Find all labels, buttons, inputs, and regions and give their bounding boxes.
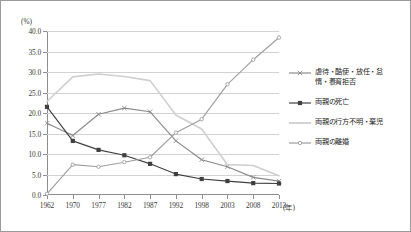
data-point-marker bbox=[174, 139, 178, 143]
chart-legend: 虐待・酷使・放任・怠 惰・養育拒否両親の死亡両親の行方不明・棄児両親の離婚 bbox=[289, 67, 407, 157]
data-point-marker bbox=[226, 83, 229, 86]
legend-marker-icon bbox=[289, 68, 311, 78]
data-point-marker bbox=[200, 117, 203, 120]
x-axis-tick-label: 1970 bbox=[66, 201, 80, 210]
legend-label: 両親の離婚 bbox=[315, 137, 349, 147]
legend-item-2[interactable]: 両親の行方不明・棄児 bbox=[289, 117, 407, 128]
x-axis-tick bbox=[73, 195, 74, 199]
data-point-marker bbox=[45, 105, 49, 109]
series-line bbox=[47, 74, 279, 176]
x-axis-tick bbox=[150, 195, 151, 199]
data-point-marker bbox=[71, 139, 75, 143]
x-axis-tick-label: 1992 bbox=[169, 201, 183, 210]
x-axis-tick bbox=[227, 195, 228, 199]
x-axis-tick-label: 1977 bbox=[91, 201, 105, 210]
x-axis-tick-label: 2008 bbox=[246, 201, 260, 210]
data-point-marker bbox=[251, 181, 255, 185]
legend-item-1[interactable]: 両親の死亡 bbox=[289, 97, 407, 108]
x-axis-tick bbox=[99, 195, 100, 199]
legend-marker-icon bbox=[289, 118, 311, 128]
data-point-marker bbox=[298, 101, 302, 105]
data-point-marker bbox=[174, 131, 177, 134]
data-point-marker bbox=[225, 179, 229, 183]
series-layer bbox=[47, 31, 279, 195]
y-axis-unit-label: (%) bbox=[21, 17, 32, 26]
data-point-marker bbox=[148, 156, 151, 159]
y-axis-tick-label: 25.0 bbox=[28, 88, 41, 97]
x-axis-tick bbox=[253, 195, 254, 199]
data-point-marker bbox=[298, 141, 301, 144]
legend-item-0[interactable]: 虐待・酷使・放任・怠 惰・養育拒否 bbox=[289, 67, 407, 86]
legend-marker-icon bbox=[289, 98, 311, 108]
data-point-marker bbox=[148, 162, 152, 166]
y-axis-tick-label: 10.0 bbox=[28, 150, 41, 159]
x-axis-tick bbox=[279, 195, 280, 199]
data-point-marker bbox=[200, 177, 204, 181]
data-point-marker bbox=[277, 181, 281, 185]
y-axis-tick-label: 30.0 bbox=[28, 68, 41, 77]
x-axis-tick-label: 1987 bbox=[143, 201, 157, 210]
legend-item-3[interactable]: 両親の離婚 bbox=[289, 137, 407, 148]
y-axis-tick-label: 0.0 bbox=[32, 191, 41, 200]
plot-wrapper: 0.05.010.015.020.025.030.035.040.0 19621… bbox=[47, 31, 279, 195]
y-axis-tick-label: 5.0 bbox=[32, 170, 41, 179]
data-point-marker bbox=[71, 133, 75, 137]
x-axis-tick-label: 2013 bbox=[272, 201, 286, 210]
y-axis-tick-label: 15.0 bbox=[28, 129, 41, 138]
legend-label: 虐待・酷使・放任・怠 惰・養育拒否 bbox=[315, 67, 383, 86]
legend-label: 両親の死亡 bbox=[315, 97, 349, 107]
x-axis-tick-label: 1998 bbox=[194, 201, 208, 210]
legend-label: 両親の行方不明・棄児 bbox=[315, 117, 383, 127]
data-point-marker bbox=[96, 148, 100, 152]
chart-series-3 bbox=[45, 36, 280, 196]
data-point-marker bbox=[252, 58, 255, 61]
x-axis-tick bbox=[202, 195, 203, 199]
y-axis-tick-label: 20.0 bbox=[28, 109, 41, 118]
x-axis-tick bbox=[124, 195, 125, 199]
data-point-marker bbox=[123, 161, 126, 164]
data-point-marker bbox=[277, 36, 280, 39]
data-point-marker bbox=[122, 153, 126, 157]
y-axis-tick-label: 40.0 bbox=[28, 27, 41, 36]
x-axis-tick-label: 2003 bbox=[220, 201, 234, 210]
data-point-marker bbox=[97, 165, 100, 168]
data-point-marker bbox=[45, 192, 48, 195]
data-point-marker bbox=[71, 163, 74, 166]
y-axis-tick-label: 35.0 bbox=[28, 47, 41, 56]
x-axis-tick-label: 1962 bbox=[40, 201, 54, 210]
data-point-marker bbox=[174, 172, 178, 176]
chart-series-2 bbox=[47, 74, 279, 176]
data-point-marker bbox=[45, 121, 49, 125]
series-line bbox=[47, 38, 279, 194]
x-axis-tick-label: 1982 bbox=[117, 201, 131, 210]
x-axis-tick bbox=[176, 195, 177, 199]
legend-marker-icon bbox=[289, 138, 311, 148]
chart-frame: (%) (年) 0.05.010.015.020.025.030.035.040… bbox=[0, 0, 411, 232]
